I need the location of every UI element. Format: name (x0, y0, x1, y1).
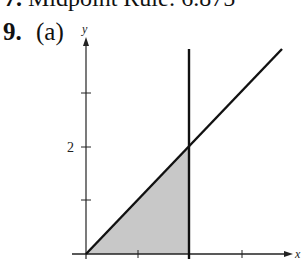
y-tick-label-2: 2 (67, 140, 74, 155)
x-axis-arrow-icon (284, 251, 293, 257)
graph: x y 2 (0, 0, 302, 263)
x-axis-label: x (294, 247, 301, 261)
y-axis-arrow-icon (83, 37, 89, 46)
y-axis-label: y (81, 22, 88, 36)
